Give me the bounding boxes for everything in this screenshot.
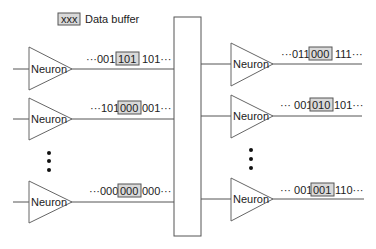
interconnect-bus [174, 17, 201, 236]
neuron-label: Neuron [233, 110, 269, 122]
left-neuron-3: Neuron ···000 000 000··· [13, 181, 174, 223]
bit-suffix: 101··· [334, 99, 363, 111]
neuron-label: Neuron [233, 58, 269, 70]
left-neuron-2: Neuron ···101 000 001··· [13, 98, 174, 140]
buffer-bits: 010 [312, 99, 330, 111]
legend-sample-text: xxx [61, 13, 78, 25]
neuron-label: Neuron [233, 193, 269, 205]
bit-prefix: ···000 [89, 185, 118, 197]
right-neuron-1: Neuron ···011 000 111··· [201, 43, 363, 86]
neuron-label: Neuron [31, 113, 67, 125]
buffer-bits: 001 [313, 184, 331, 196]
buffer-bits: 000 [311, 48, 329, 60]
right-neuron-2: Neuron ··· 001 010 101··· [201, 95, 363, 138]
buffer-bits: 000 [120, 185, 138, 197]
bit-suffix: 111··· [335, 48, 363, 60]
neuron-label: Neuron [31, 63, 67, 75]
neural-bus-diagram: xxx Data buffer Neuron ···001 101 101···… [0, 0, 376, 249]
left-ellipsis-icon [47, 151, 51, 172]
bit-prefix: ··· 001 [280, 99, 312, 111]
bit-prefix: ···001 [86, 53, 115, 65]
bit-suffix: 101··· [142, 53, 171, 65]
neuron-label: Neuron [31, 196, 67, 208]
bit-prefix: ···011 [281, 48, 310, 60]
bit-suffix: 000··· [142, 185, 171, 197]
legend: xxx Data buffer [58, 13, 140, 25]
bit-prefix: ··· 001 [280, 184, 312, 196]
right-ellipsis-icon [249, 148, 253, 170]
bit-suffix: 001··· [142, 102, 171, 114]
right-neuron-3: Neuron ··· 001 001 110··· [201, 178, 364, 221]
bit-prefix: ···101 [90, 102, 119, 114]
buffer-bits: 000 [120, 102, 138, 114]
bit-suffix: 110··· [335, 184, 364, 196]
left-neuron-1: Neuron ···001 101 101··· [13, 47, 174, 90]
legend-label: Data buffer [85, 13, 140, 25]
buffer-bits: 101 [118, 53, 136, 65]
